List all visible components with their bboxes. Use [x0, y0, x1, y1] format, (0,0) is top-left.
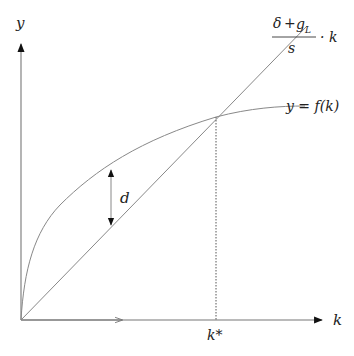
times-k: · k	[320, 29, 337, 45]
break-even-label: δ + g L s · k	[272, 15, 337, 56]
delta-symbol: δ	[273, 15, 281, 31]
gap-label: d	[120, 189, 130, 207]
production-curve	[21, 106, 305, 320]
denominator-s: s	[288, 40, 295, 56]
steady-state-label: k*	[207, 327, 222, 343]
y-axis-label: y	[15, 14, 25, 32]
L-subscript: L	[304, 25, 311, 35]
solow-diagram: y k d k* y = f(k) δ + g L s · k	[0, 0, 354, 356]
plus-symbol: +	[284, 15, 296, 31]
x-axis-label: k	[333, 311, 342, 329]
g-symbol: g	[296, 16, 305, 32]
production-curve-label: y = f(k)	[285, 98, 339, 114]
break-even-line	[21, 26, 307, 320]
